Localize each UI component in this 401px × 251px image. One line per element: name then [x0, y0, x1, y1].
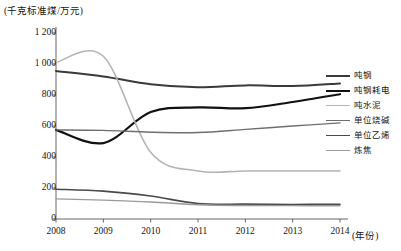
x-axis-tick-label: 2011	[178, 226, 218, 236]
series-line-2	[56, 51, 340, 173]
y-axis-tick-label: 1 200	[10, 28, 56, 38]
legend-item[interactable]: 吨钢耗电	[326, 83, 401, 98]
legend-color-swatch	[326, 75, 350, 77]
legend-label: 吨钢	[354, 71, 372, 80]
legend-color-swatch	[326, 135, 350, 136]
x-axis-title: (年份)	[352, 228, 378, 242]
legend-label: 单位烧碱	[354, 116, 390, 125]
series-line-0	[56, 71, 340, 87]
y-axis-tick-label: 400	[10, 152, 56, 162]
y-axis-tick-label: 0	[10, 214, 56, 224]
series-line-3	[56, 123, 340, 133]
legend-color-swatch	[326, 105, 350, 106]
chart-legend: 吨钢吨钢耗电吨水泥单位烧碱单位乙烯炼焦	[326, 68, 401, 158]
y-axis-tick-labels: 02004006008001 0001 200	[0, 0, 56, 251]
legend-color-swatch	[326, 120, 350, 121]
series-line-1	[56, 94, 340, 143]
legend-item[interactable]: 单位乙烯	[326, 128, 401, 143]
energy-intensity-line-chart: (千克标准煤/万元) 02004006008001 0001 200 20082…	[0, 0, 401, 251]
legend-item[interactable]: 吨水泥	[326, 98, 401, 113]
y-axis-tick-label: 200	[10, 183, 56, 193]
legend-item[interactable]: 吨钢	[326, 68, 401, 83]
x-axis-tick-label: 2010	[131, 226, 171, 236]
y-axis-tick-label: 800	[10, 90, 56, 100]
x-axis-tick-label: 2013	[273, 226, 313, 236]
y-axis-tick-label: 1 000	[10, 59, 56, 69]
series-line-4	[56, 189, 340, 204]
legend-item[interactable]: 炼焦	[326, 143, 401, 158]
legend-label: 吨水泥	[354, 101, 381, 110]
legend-color-swatch	[326, 90, 350, 92]
legend-label: 吨钢耗电	[354, 86, 390, 95]
legend-label: 炼焦	[354, 146, 372, 155]
x-axis-tick-label: 2008	[36, 226, 76, 236]
legend-label: 单位乙烯	[354, 131, 390, 140]
y-axis-tick-label: 600	[10, 121, 56, 131]
x-axis-tick-label: 2012	[225, 226, 265, 236]
legend-item[interactable]: 单位烧碱	[326, 113, 401, 128]
x-axis-tick-label: 2009	[83, 226, 123, 236]
legend-color-swatch	[326, 150, 350, 151]
